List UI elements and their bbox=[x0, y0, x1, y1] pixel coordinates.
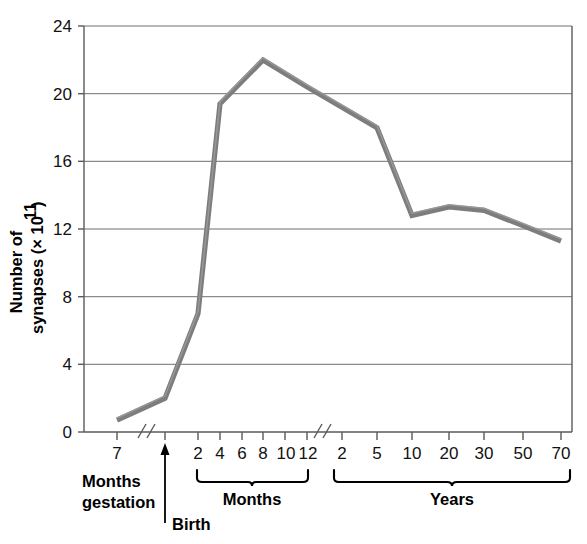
x-tick-label-year-2: 2 bbox=[337, 444, 346, 463]
y-tick-label-20: 20 bbox=[53, 85, 72, 104]
y-tick-label-0: 0 bbox=[63, 423, 72, 442]
y-tick-label-12: 12 bbox=[53, 220, 72, 239]
x-tick-label-year-20: 20 bbox=[440, 444, 459, 463]
y-axis-title-paren-close: ) bbox=[28, 202, 46, 208]
years-section-label: Years bbox=[430, 490, 474, 508]
y-tick-label-16: 16 bbox=[53, 152, 72, 171]
y-axis-tick-labels: 24 20 16 12 8 4 0 bbox=[53, 17, 72, 442]
birth-arrow-icon bbox=[161, 443, 170, 455]
y-tick-label-8: 8 bbox=[63, 288, 72, 307]
chart-figure: 24 20 16 12 8 4 0 Number of synapses (× … bbox=[0, 0, 587, 544]
birth-label: Birth bbox=[172, 515, 211, 533]
synapse-density-line-chart: 24 20 16 12 8 4 0 Number of synapses (× … bbox=[0, 0, 587, 544]
gestation-label-line1: Months bbox=[82, 472, 141, 490]
x-section-bracket-months: Months bbox=[197, 470, 308, 508]
x-section-bracket-years: Years bbox=[334, 470, 570, 508]
x-tick-label-month-8: 8 bbox=[258, 444, 267, 463]
x-tick-label-year-10: 10 bbox=[403, 444, 422, 463]
months-section-label: Months bbox=[223, 490, 282, 508]
x-axis-tick-labels: 7 2 4 6 8 10 12 2 5 10 20 30 50 70 bbox=[112, 444, 570, 463]
y-axis-title-line2: synapses (× 10 bbox=[28, 216, 46, 334]
x-tick-label-month-2: 2 bbox=[193, 444, 202, 463]
x-tick-label-gestation-7: 7 bbox=[112, 444, 121, 463]
y-axis-ticks bbox=[78, 26, 84, 432]
x-tick-label-year-70: 70 bbox=[552, 444, 571, 463]
x-tick-label-month-10: 10 bbox=[277, 444, 296, 463]
months-bracket bbox=[197, 470, 308, 486]
x-tick-label-month-12: 12 bbox=[299, 444, 318, 463]
birth-annotation: Birth bbox=[161, 443, 211, 533]
y-tick-label-4: 4 bbox=[63, 355, 72, 374]
x-tick-label-year-5: 5 bbox=[372, 444, 381, 463]
x-tick-label-month-6: 6 bbox=[237, 444, 246, 463]
x-axis-ticks bbox=[117, 432, 561, 440]
y-axis-title: Number of synapses (× 10 11 ) bbox=[7, 202, 46, 335]
x-section-label-gestation: Months gestation bbox=[82, 472, 155, 511]
x-tick-label-year-50: 50 bbox=[514, 444, 533, 463]
gestation-label-line2: gestation bbox=[82, 493, 155, 511]
x-tick-label-month-4: 4 bbox=[215, 444, 224, 463]
years-bracket bbox=[334, 470, 570, 486]
y-tick-label-24: 24 bbox=[53, 17, 72, 36]
y-axis-title-line1: Number of bbox=[7, 230, 25, 313]
x-tick-label-year-30: 30 bbox=[475, 444, 494, 463]
